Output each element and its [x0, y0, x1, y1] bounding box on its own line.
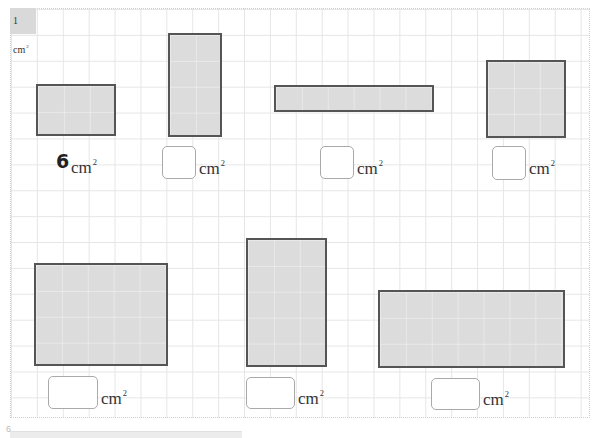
unit-label-b: cm2 — [199, 153, 225, 179]
unit-label-c: cm2 — [357, 153, 383, 179]
rectangle-c — [274, 85, 434, 112]
answer-input-d[interactable] — [492, 146, 526, 180]
rectangle-f — [246, 238, 327, 367]
answer-input-b[interactable] — [162, 146, 196, 179]
answer-input-e[interactable] — [48, 376, 98, 409]
unit-square-legend: 1 cm2 — [10, 8, 36, 34]
rectangle-b — [168, 33, 222, 137]
cutoff-bar — [10, 431, 242, 438]
unit-label: cm — [13, 44, 25, 55]
rectangle-a — [36, 84, 116, 136]
rectangle-g — [378, 290, 565, 368]
rectangle-d — [486, 60, 566, 138]
unit-label-d: cm2 — [529, 153, 555, 179]
rectangle-e — [34, 263, 168, 366]
unit-label-e: cm2 — [101, 383, 127, 409]
unit-exponent: 2 — [26, 44, 29, 49]
unit-label-f: cm2 — [298, 383, 324, 409]
answer-input-g[interactable] — [431, 378, 480, 410]
answer-input-f[interactable] — [246, 377, 295, 409]
unit-label-g: cm2 — [483, 384, 509, 410]
unit-value: 1 — [13, 15, 18, 26]
answer-a-given: 6 — [56, 150, 69, 172]
answer-input-c[interactable] — [320, 146, 354, 179]
unit-label-a: cm2 — [71, 152, 97, 178]
